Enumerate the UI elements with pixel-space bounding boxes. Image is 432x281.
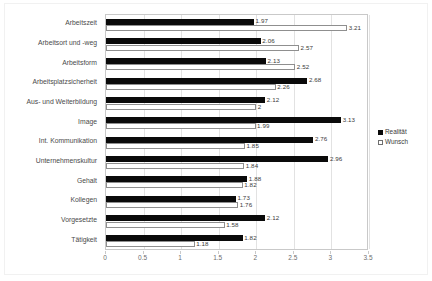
- bar-group: 2.132.52: [106, 54, 367, 74]
- bar-realitaet: [106, 196, 236, 202]
- chart-legend: RealitätWunsch: [378, 128, 430, 148]
- bar-wunsch: [106, 222, 225, 228]
- bar-value-label: 1.82: [244, 235, 256, 241]
- bar-value-label: 1.99: [257, 123, 269, 129]
- bar-value-label: 2.52: [297, 64, 309, 70]
- legend-swatch-icon: [378, 130, 383, 135]
- legend-label: Realität: [385, 129, 407, 135]
- bar-group: 2.961.84: [106, 153, 367, 173]
- bar-value-label: 2.96: [330, 156, 342, 162]
- bar-realitaet: [106, 19, 254, 25]
- bar-group: 1.731.76: [106, 192, 367, 212]
- bar-value-label: 3.21: [349, 25, 361, 31]
- gridline: [369, 15, 370, 249]
- bar-group: 2.682.26: [106, 74, 367, 94]
- bar-chart: ArbeitszeitArbeitsort und -wegArbeitsfor…: [0, 0, 432, 281]
- bar-realitaet: [106, 38, 261, 44]
- x-tick-label: 2.5: [288, 255, 297, 262]
- bar-realitaet: [106, 156, 328, 162]
- bar-wunsch: [106, 84, 276, 90]
- bar-wunsch: [106, 202, 238, 208]
- category-label: Arbeitsplatzsicherheit: [0, 79, 97, 86]
- bar-wunsch: [106, 143, 245, 149]
- category-label: Tätigkeit: [0, 237, 97, 244]
- bar-value-label: 2.12: [267, 215, 279, 221]
- category-label: Kollegen: [0, 197, 97, 204]
- bar-value-label: 2.12: [267, 97, 279, 103]
- category-label: Vorgesetzte: [0, 217, 97, 224]
- bar-group: 2.062.57: [106, 35, 367, 55]
- category-label: Arbeitszeit: [0, 20, 97, 27]
- x-tick-label: 1: [178, 255, 182, 262]
- bar-realitaet: [106, 176, 247, 182]
- bar-value-label: 1.85: [247, 143, 259, 149]
- bar-value-label: 1.84: [246, 163, 258, 169]
- bar-wunsch: [106, 123, 256, 129]
- bar-value-label: 2: [258, 104, 262, 110]
- y-axis-category-labels: ArbeitszeitArbeitsort und -wegArbeitsfor…: [0, 14, 101, 250]
- bar-group: 1.881.82: [106, 172, 367, 192]
- category-label: Gehalt: [0, 178, 97, 185]
- category-label: Aus- und Weiterbildung: [0, 99, 97, 106]
- legend-label: Wunsch: [385, 139, 408, 145]
- bar-realitaet: [106, 117, 341, 123]
- bar-realitaet: [106, 137, 313, 143]
- bar-realitaet: [106, 235, 243, 241]
- bar-wunsch: [106, 182, 243, 188]
- bar-wunsch: [106, 25, 347, 31]
- bar-realitaet: [106, 215, 265, 221]
- x-tick-label: 3: [329, 255, 333, 262]
- bar-wunsch: [106, 241, 195, 247]
- bar-value-label: 1.97: [256, 18, 268, 24]
- bar-realitaet: [106, 97, 265, 103]
- x-tick-label: 3.5: [363, 255, 372, 262]
- legend-item: Realität: [378, 128, 430, 137]
- bar-value-label: 1.82: [244, 182, 256, 188]
- bar-group: 3.131.99: [106, 113, 367, 133]
- category-label: Int. Kommunikation: [0, 138, 97, 145]
- bar-value-label: 2.68: [309, 77, 321, 83]
- x-tick-label: 0.5: [138, 255, 147, 262]
- bar-value-label: 3.13: [343, 117, 355, 123]
- legend-item: Wunsch: [378, 138, 430, 147]
- plot-area: 1.973.212.062.572.132.522.682.262.1223.1…: [105, 14, 368, 250]
- bar-value-label: 2.13: [268, 58, 280, 64]
- x-axis: 00.511.522.533.5: [105, 251, 368, 265]
- x-tick-label: 1.5: [213, 255, 222, 262]
- bar-value-label: 1.58: [226, 222, 238, 228]
- bar-value-label: 1.18: [196, 241, 208, 247]
- bar-group: 2.121.58: [106, 212, 367, 232]
- bar-group: 1.821.18: [106, 231, 367, 251]
- bar-group: 1.973.21: [106, 15, 367, 35]
- category-label: Image: [0, 119, 97, 126]
- bar-wunsch: [106, 163, 244, 169]
- category-label: Arbeitsort und -weg: [0, 40, 97, 47]
- x-tick-label: 0: [103, 255, 107, 262]
- bar-value-label: 1.76: [240, 202, 252, 208]
- bar-wunsch: [106, 64, 295, 70]
- bar-group: 2.761.85: [106, 133, 367, 153]
- bar-value-label: 2.76: [315, 136, 327, 142]
- bar-value-label: 2.06: [262, 38, 274, 44]
- bar-realitaet: [106, 58, 266, 64]
- bar-wunsch: [106, 45, 299, 51]
- bar-value-label: 2.26: [277, 84, 289, 90]
- category-label: Unternehmenskultur: [0, 158, 97, 165]
- bar-wunsch: [106, 104, 256, 110]
- x-tick-label: 2: [253, 255, 257, 262]
- legend-swatch-icon: [378, 140, 383, 145]
- bar-value-label: 2.57: [301, 45, 313, 51]
- category-label: Arbeitsform: [0, 60, 97, 67]
- bar-group: 2.122: [106, 94, 367, 114]
